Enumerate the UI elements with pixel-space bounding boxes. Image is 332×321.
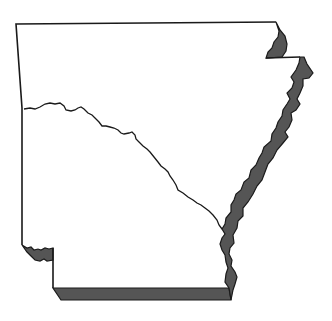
arkansas-map — [0, 0, 332, 321]
state-boundary — [16, 22, 300, 288]
eastern-shaded-band — [220, 57, 313, 300]
southwest-shaded-notch — [22, 245, 53, 261]
river — [24, 103, 222, 229]
northeast-shaded-strip — [266, 22, 287, 58]
southern-shaded-strip — [53, 288, 231, 300]
